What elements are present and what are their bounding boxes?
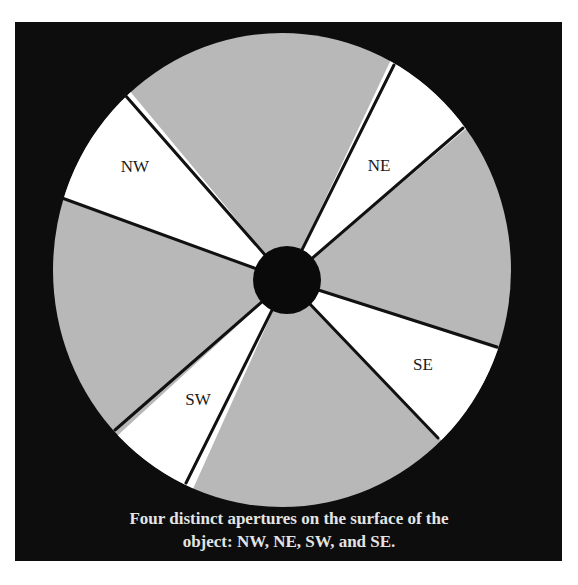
label-ne: NE — [368, 156, 391, 175]
central-hub — [253, 246, 321, 314]
label-se: SE — [413, 355, 433, 374]
label-sw: SW — [185, 390, 211, 409]
aperture-diagram: NW NE SW SE Four distinct apertures on t… — [0, 0, 578, 585]
label-nw: NW — [121, 157, 150, 176]
caption-line-2: object: NW, NE, SW, and SE. — [183, 532, 396, 551]
caption-line-1: Four distinct apertures on the surface o… — [129, 509, 448, 528]
